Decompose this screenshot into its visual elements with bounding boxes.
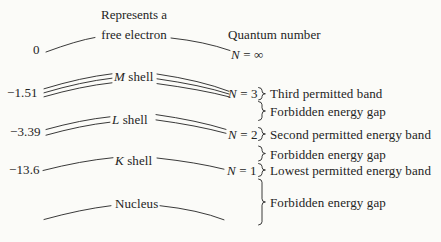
forbidden-gap-label-3: Forbidden energy gap [270,196,386,209]
arc-line [46,122,110,135]
quantum-number-k: N = 1 [227,164,257,177]
arc-line [160,206,224,220]
arc-line [171,38,230,51]
brace-icon [259,102,266,121]
band-label-third: Third permitted band [270,87,382,100]
band-label-lowest: Lowest permitted energy band [270,164,431,177]
arc-line [156,115,226,130]
shell-word: shell [123,112,148,127]
shell-label-m: M shell [114,70,153,83]
quantum-number-heading: Quantum number [228,28,321,41]
quantum-value: = ∞ [243,47,263,62]
quantum-value: = 2 [240,127,257,142]
quantum-letter: N [231,47,240,62]
quantum-number-free: N = ∞ [231,48,263,61]
arc-line [46,38,95,53]
brace-icon [259,179,266,225]
forbidden-gap-label-2: Forbidden energy gap [270,148,386,161]
quantum-value: = 3 [240,86,257,101]
free-electron-caption: Represents a free electron [92,5,176,44]
arc-line [44,206,111,220]
arc-line [44,74,112,89]
forbidden-gap-label-1: Forbidden energy gap [270,105,386,118]
quantum-number-l: N = 2 [228,128,258,141]
shell-letter: L [112,112,119,127]
shell-letter: M [114,69,125,84]
shell-label-l: L shell [112,113,148,126]
energy-level-diagram: Represents a free electron Quantum numbe… [0,0,441,242]
brace-icon [259,128,266,141]
brace-icon [259,88,266,101]
energy-value-l: −3.39 [10,125,41,138]
nucleus-label: Nucleus [115,197,158,210]
brace-icon [259,164,266,177]
shell-label-k: K shell [115,154,152,167]
free-electron-caption-line2: free electron [92,25,176,45]
quantum-letter: N [228,86,237,101]
quantum-letter: N [227,163,236,178]
quantum-letter: N [228,127,237,142]
braces [259,88,266,226]
shell-word: shell [127,153,152,168]
arc-line [157,84,229,97]
arc-line [43,158,113,171]
brace-icon [259,146,266,161]
band-label-second: Second permitted energy band [270,128,431,141]
quantum-number-m: N = 3 [228,87,258,100]
quantum-value: = 1 [239,163,256,178]
shell-letter: K [115,153,124,168]
arc-line [157,158,224,169]
energy-value-m: −1.51 [7,86,38,99]
shell-word: shell [128,69,153,84]
energy-value-free: 0 [33,43,40,56]
energy-value-k: −13.6 [9,163,40,176]
free-electron-caption-line1: Represents a [92,5,176,25]
